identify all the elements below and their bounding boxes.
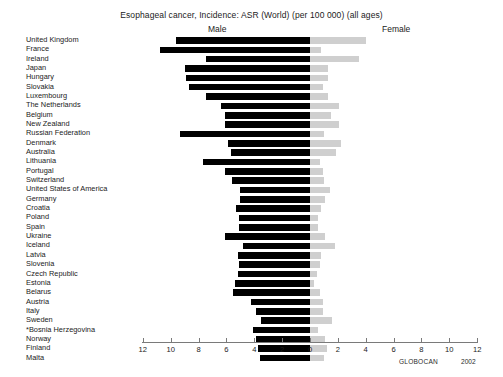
bar-male xyxy=(261,317,310,324)
axis-tick xyxy=(254,338,255,343)
bar-female xyxy=(310,243,335,250)
category-label: Estonia xyxy=(0,278,133,288)
bar-male xyxy=(233,289,310,296)
bar-male xyxy=(238,252,310,259)
category-label: Slovenia xyxy=(0,259,133,269)
bar-female xyxy=(310,56,359,63)
bar-female xyxy=(310,233,325,240)
legend-label-male: Male xyxy=(208,24,226,34)
bar-male xyxy=(203,159,310,166)
axis-tick-label: 6 xyxy=(391,345,395,354)
axis-tick xyxy=(282,338,283,343)
bar-female xyxy=(310,289,320,296)
legend-label-female: Female xyxy=(382,24,410,34)
axis-tick-label: 12 xyxy=(473,345,481,354)
bar-male xyxy=(225,112,310,119)
axis-tick-label: 2 xyxy=(280,345,284,354)
bar-female xyxy=(310,75,328,82)
bar-female xyxy=(310,93,328,100)
category-label: Latvia xyxy=(0,250,133,260)
axis-tick xyxy=(226,338,227,343)
category-label: *Bosnia Herzegovina xyxy=(0,325,133,335)
category-label: Ireland xyxy=(0,54,133,64)
bar-male xyxy=(180,131,310,138)
bar-male xyxy=(239,261,310,268)
bar-female xyxy=(310,187,330,194)
bar-male xyxy=(253,327,310,334)
axis-tick-label: 8 xyxy=(419,345,423,354)
category-label: France xyxy=(0,44,133,54)
category-label: Australia xyxy=(0,147,133,157)
bar-male xyxy=(235,280,310,287)
bar-female xyxy=(310,224,318,231)
bar-male xyxy=(243,243,310,250)
bar-male xyxy=(221,103,310,110)
axis-tick-label: 6 xyxy=(224,345,228,354)
category-label: Czech Republic xyxy=(0,269,133,279)
category-label: Denmark xyxy=(0,138,133,148)
axis-tick-label: 10 xyxy=(166,345,174,354)
axis-tick-label: 8 xyxy=(196,345,200,354)
bar-male xyxy=(256,308,310,315)
bar-female xyxy=(310,149,336,156)
category-label: Germany xyxy=(0,194,133,204)
axis-tick-label: 10 xyxy=(445,345,453,354)
bar-female xyxy=(310,205,321,212)
bar-female xyxy=(310,261,320,268)
axis-tick-label: 12 xyxy=(139,345,147,354)
axis-tick-label: 0 xyxy=(308,345,312,354)
bar-female xyxy=(310,121,339,128)
credit-year: 2002 xyxy=(461,358,476,365)
bar-male xyxy=(240,196,310,203)
bar-male xyxy=(225,121,310,128)
bar-male xyxy=(186,75,310,82)
bar-female xyxy=(310,215,318,222)
category-label: Luxembourg xyxy=(0,91,133,101)
category-label: Poland xyxy=(0,212,133,222)
axis-tick-label: 2 xyxy=(336,345,340,354)
bar-female xyxy=(310,271,317,278)
axis-tick-label: 4 xyxy=(252,345,256,354)
category-label: United States of America xyxy=(0,184,133,194)
bar-male xyxy=(231,149,310,156)
chart-root: Esophageal cancer, Incidence: ASR (World… xyxy=(0,0,503,377)
axis-tick xyxy=(143,338,144,343)
bar-male xyxy=(185,65,310,72)
bar-female xyxy=(310,65,328,72)
bar-female xyxy=(310,299,323,306)
axis-tick xyxy=(171,338,172,343)
bar-female xyxy=(310,47,321,54)
category-label: Belarus xyxy=(0,287,133,297)
bar-female xyxy=(310,84,323,91)
category-label: Lithuania xyxy=(0,156,133,166)
bar-male xyxy=(239,224,310,231)
category-label: Switzerland xyxy=(0,175,133,185)
bar-male xyxy=(189,84,310,91)
bar-female xyxy=(310,317,332,324)
bar-male xyxy=(206,56,310,63)
x-axis: 12108642024681012 GLOBOCAN 2002 xyxy=(0,336,503,377)
category-label: Belgium xyxy=(0,110,133,120)
category-label: Croatia xyxy=(0,203,133,213)
bar-male xyxy=(232,177,310,184)
credit-source: GLOBOCAN xyxy=(399,358,438,365)
bar-female xyxy=(310,37,366,44)
bar-male xyxy=(160,47,310,54)
bar-male xyxy=(176,37,310,44)
category-label: Portugal xyxy=(0,166,133,176)
axis-tick xyxy=(199,338,200,343)
axis-tick xyxy=(449,338,450,343)
bar-female xyxy=(310,196,325,203)
category-label: Italy xyxy=(0,306,133,316)
plot-area: United KingdomFranceIrelandJapanHungaryS… xyxy=(0,36,503,331)
category-label: Slovakia xyxy=(0,82,133,92)
bar-male xyxy=(225,168,310,175)
axis-tick xyxy=(366,338,367,343)
bar-female xyxy=(310,103,339,110)
category-label: Sweden xyxy=(0,315,133,325)
chart-title: Esophageal cancer, Incidence: ASR (World… xyxy=(0,10,503,20)
category-label: Spain xyxy=(0,222,133,232)
bar-male xyxy=(236,205,310,212)
bar-female xyxy=(310,177,324,184)
bar-female xyxy=(310,308,323,315)
